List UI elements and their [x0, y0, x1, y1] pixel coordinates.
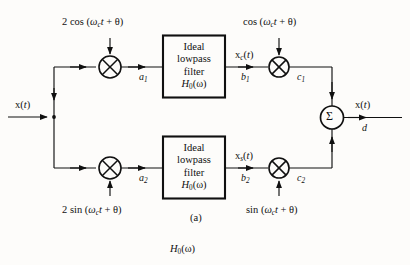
input-signal-label: x(t)	[15, 100, 30, 111]
carrier-label-top-right: cos (ωct + θ)	[243, 17, 296, 29]
output-node-label: d	[362, 123, 367, 133]
node-label-a1: a1	[139, 72, 148, 84]
split-junction-dot	[52, 115, 56, 119]
node-label-a2: a2	[139, 173, 148, 185]
figure-caption: (a)	[190, 213, 202, 224]
lower-filter-line3: filter	[163, 167, 225, 179]
upper-filter-line2: lowpass	[163, 53, 225, 65]
lower-filter-text: Ideal lowpass filter H0(ω)	[163, 142, 225, 195]
upper-filter-line1: Ideal	[163, 41, 225, 53]
lower-filter-line2: lowpass	[163, 154, 225, 166]
node-label-c2: c2	[297, 173, 305, 185]
signal-label-xc: xc(t)	[235, 50, 253, 62]
block-diagram-svg	[0, 0, 410, 265]
summation-symbol: Σ	[326, 110, 333, 122]
upper-filter-text: Ideal lowpass filter H0(ω)	[163, 41, 225, 94]
upper-filter-line3: filter	[163, 66, 225, 78]
carrier-label-bottom-right: sin (ωct + θ)	[246, 205, 298, 217]
node-label-c1: c1	[297, 72, 305, 84]
node-label-b1: b1	[241, 72, 250, 84]
output-signal-label: x(t)	[355, 100, 370, 111]
bottom-transfer-function-label: H0(ω)	[170, 244, 195, 256]
carrier-label-bottom-left: 2 sin (ωct + θ)	[62, 205, 122, 217]
figure-container: x(t) 2 cos (ωct + θ) 2 sin (ωct + θ) cos…	[0, 0, 410, 265]
lower-filter-line1: Ideal	[163, 142, 225, 154]
carrier-label-top-left: 2 cos (ωct + θ)	[62, 17, 123, 29]
upper-filter-transfer-function: H0(ω)	[163, 78, 225, 93]
node-label-b2: b2	[241, 173, 250, 185]
lower-filter-transfer-function: H0(ω)	[163, 179, 225, 194]
signal-label-xs: xs(t)	[235, 151, 253, 163]
